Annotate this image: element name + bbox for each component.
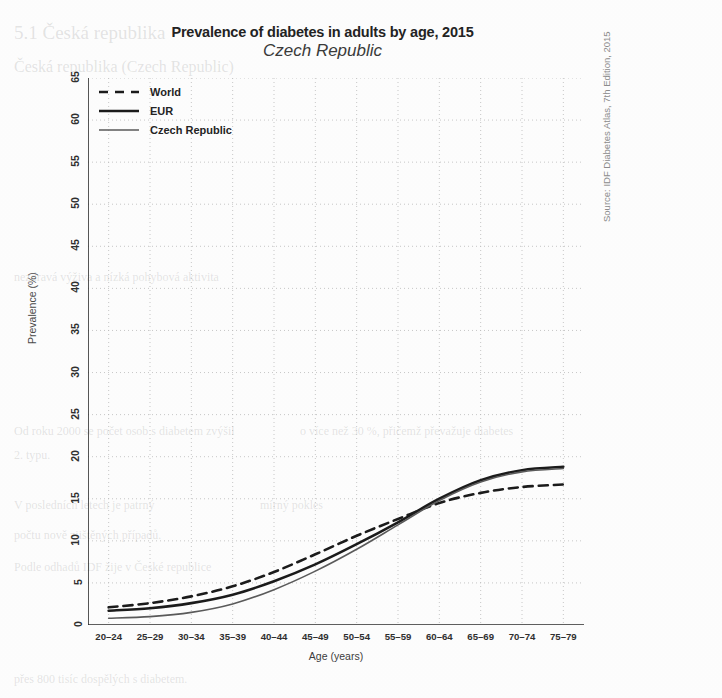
x-tick-label: 25–29 (137, 631, 164, 642)
legend-line-swatch (98, 105, 140, 117)
y-tick-label: 45 (69, 239, 81, 251)
plot-canvas (88, 78, 584, 625)
x-tick-label: 35–39 (219, 631, 246, 642)
y-tick-label: 30 (69, 366, 81, 378)
y-tick-label: 60 (69, 113, 81, 125)
x-tick-label: 70–74 (509, 631, 536, 642)
y-tick-label: 50 (69, 197, 81, 209)
x-tick-label: 40–44 (261, 631, 288, 642)
y-tick-label: 0 (75, 618, 81, 630)
series-line (109, 484, 564, 607)
x-tick-label: 50–54 (343, 631, 370, 642)
plot-area: Prevalence (%) 0510152025303540455055606… (88, 78, 584, 625)
y-tick-label: 15 (69, 492, 81, 504)
y-tick-label: 55 (69, 155, 81, 167)
page-title: Prevalence of diabetes in adults by age,… (0, 24, 645, 40)
legend-line-swatch (98, 86, 140, 98)
legend-label: EUR (150, 105, 173, 117)
y-tick-label: 20 (69, 450, 81, 462)
y-tick-label: 5 (75, 576, 81, 588)
series-line (109, 467, 564, 611)
source-note: Source: IDF Diabetes Atlas, 7th Edition,… (601, 31, 612, 222)
y-tick-label: 40 (69, 281, 81, 293)
y-tick-label: 35 (69, 323, 81, 335)
y-tick-label: 10 (69, 534, 81, 546)
gridlines (88, 78, 584, 625)
y-tick-label: 65 (69, 71, 81, 83)
chart-legend: WorldEURCzech Republic (98, 82, 288, 139)
series-lines (109, 467, 564, 618)
x-tick-label: 60–64 (426, 631, 453, 642)
chart-figure: Prevalence of diabetes in adults by age,… (0, 0, 722, 698)
y-tick-label: 25 (69, 408, 81, 420)
title-block: Prevalence of diabetes in adults by age,… (0, 24, 645, 61)
x-tick-label: 65–69 (467, 631, 494, 642)
x-tick-label: 75–79 (550, 631, 577, 642)
legend-item: Czech Republic (98, 120, 288, 139)
x-tick-label: 55–59 (385, 631, 412, 642)
legend-item: EUR (98, 101, 288, 120)
x-tick-label: 30–34 (178, 631, 205, 642)
legend-item: World (98, 82, 288, 101)
chart-subtitle: Czech Republic (0, 41, 645, 61)
x-tick-label: 45–49 (302, 631, 329, 642)
legend-label: Czech Republic (150, 124, 232, 136)
legend-label: World (150, 86, 181, 98)
x-axis-label: Age (years) (88, 650, 584, 662)
y-axis-label: Prevalence (%) (26, 272, 38, 344)
legend-line-swatch (98, 124, 140, 136)
axis-tickmarks (88, 78, 563, 625)
x-tick-label: 20–24 (95, 631, 122, 642)
